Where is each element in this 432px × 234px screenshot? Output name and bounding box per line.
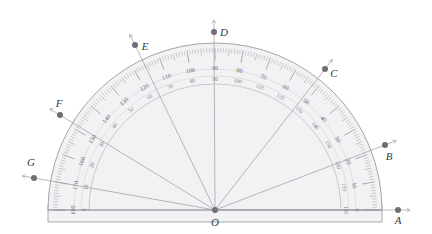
point-D[interactable] [211, 29, 217, 35]
point-C[interactable] [322, 66, 328, 72]
scale-number-outer-90: 90 [212, 64, 218, 71]
scale-number-inner-90: 90 [212, 76, 218, 82]
point-label-F: F [55, 97, 63, 109]
point-G[interactable] [31, 175, 37, 181]
point-label-C: C [330, 67, 338, 79]
scale-number-outer-10: 10 [351, 182, 359, 189]
point-A[interactable] [395, 207, 401, 213]
point-B[interactable] [382, 142, 388, 148]
point-E[interactable] [132, 42, 138, 48]
protractor-diagram: 0180101702016030150401405013060120701108… [0, 0, 432, 234]
point-label-G: G [27, 156, 35, 168]
point-F[interactable] [57, 112, 63, 118]
point-label-A: A [394, 214, 402, 226]
figure-canvas: 0180101702016030150401405013060120701108… [0, 0, 432, 234]
point-label-B: B [386, 150, 393, 162]
point-label-D: D [219, 26, 228, 38]
point-label-E: E [141, 40, 149, 52]
scale-number-outer-80: 80 [236, 66, 243, 74]
point-label-O: O [211, 216, 219, 228]
